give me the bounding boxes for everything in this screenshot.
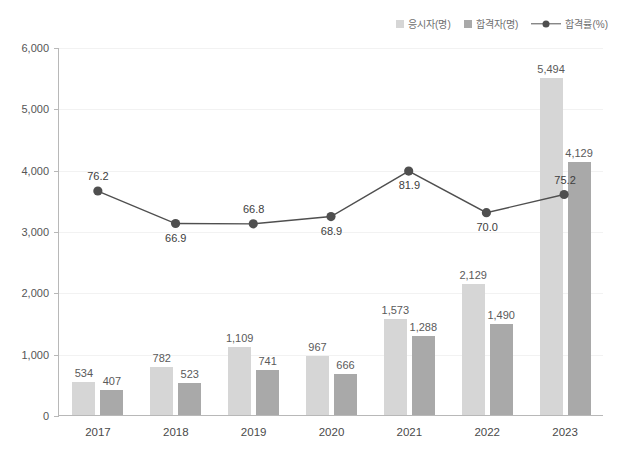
bar-value-label: 5,494 [537,63,565,75]
line-value-label: 75.2 [554,174,575,186]
legend-label: 합격자(명) [476,16,519,31]
line-value-label: 66.8 [243,203,264,215]
chart-container: 응시자(명)합격자(명)합격률(%) 01,0002,0003,0004,000… [0,0,626,462]
bar-value-label: 1,573 [382,304,410,316]
bar-value-label: 666 [336,359,354,371]
y-axis-label: 5,000 [21,103,49,115]
bar-value-label: 1,490 [487,309,515,321]
square-swatch-icon [396,20,404,28]
legend-label: 합격률(%) [565,16,608,31]
y-axis-label: 4,000 [21,165,49,177]
legend-label: 응시자(명) [408,16,451,31]
plot-area: 01,0002,0003,0004,0005,0006,000 53440778… [58,48,603,416]
plot-wrapper: 01,0002,0003,0004,0005,0006,000 53440778… [58,48,603,416]
bar-value-label: 534 [75,367,93,379]
x-axis-label: 2019 [241,426,267,438]
line-value-label: 68.9 [321,225,342,237]
bar-value-label: 1,109 [226,332,254,344]
x-axis-label: 2023 [552,426,578,438]
chart-legend: 응시자(명)합격자(명)합격률(%) [396,16,608,31]
line-value-label: 76.2 [87,170,108,182]
bar-value-label: 782 [153,352,171,364]
legend-item[interactable]: 응시자(명) [396,16,451,31]
line-marker-icon [531,20,561,28]
bar-value-label: 967 [308,341,326,353]
bar-value-label: 407 [103,375,121,387]
x-axis-label: 2017 [85,426,111,438]
bar-value-label: 523 [181,368,199,380]
y-axis-label: 0 [43,410,49,422]
x-axis-label: 2021 [397,426,423,438]
bar-value-label: 2,129 [459,269,487,281]
y-axis-label: 1,000 [21,349,49,361]
line-value-label: 66.9 [165,232,186,244]
y-axis-label: 3,000 [21,226,49,238]
x-axis-label: 2020 [319,426,345,438]
bar-value-label: 1,288 [410,321,438,333]
data-labels-layer: 5344077825231,1097419676661,5731,2882,12… [59,48,603,415]
legend-item[interactable]: 합격률(%) [531,16,608,31]
line-value-label: 81.9 [399,179,420,191]
square-swatch-icon [464,20,472,28]
y-axis-label: 2,000 [21,287,49,299]
legend-item[interactable]: 합격자(명) [464,16,519,31]
x-axis-label: 2022 [474,426,500,438]
y-axis-label: 6,000 [21,42,49,54]
bar-value-label: 741 [258,355,276,367]
line-value-label: 70.0 [476,221,497,233]
y-axis-tick [54,416,59,417]
x-axis-label: 2018 [163,426,189,438]
bar-value-label: 4,129 [565,147,593,159]
